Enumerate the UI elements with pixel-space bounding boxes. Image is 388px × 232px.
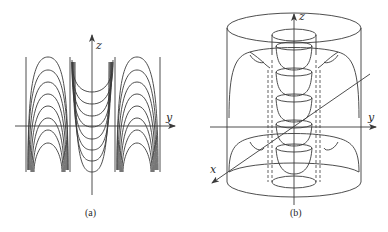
column-separators <box>26 57 160 172</box>
panel-b: z y x (b) <box>210 10 376 219</box>
arch-curves-left <box>28 57 68 172</box>
y-axis-label: y <box>165 111 173 124</box>
caption-a: (a) <box>85 207 96 219</box>
arch-curves-right <box>117 57 158 172</box>
z-axis-label: z <box>95 39 102 52</box>
z-axis-label-3d: z <box>298 10 305 23</box>
panel-a: z y (a) <box>15 35 175 219</box>
figure: z y (a) <box>0 0 388 232</box>
y-axis-label-3d: y <box>367 111 375 124</box>
cup-curves-middle <box>72 60 113 172</box>
x-axis-label-3d: x <box>210 163 217 176</box>
caption-b: (b) <box>290 207 302 219</box>
x-axis-3d <box>212 74 370 183</box>
